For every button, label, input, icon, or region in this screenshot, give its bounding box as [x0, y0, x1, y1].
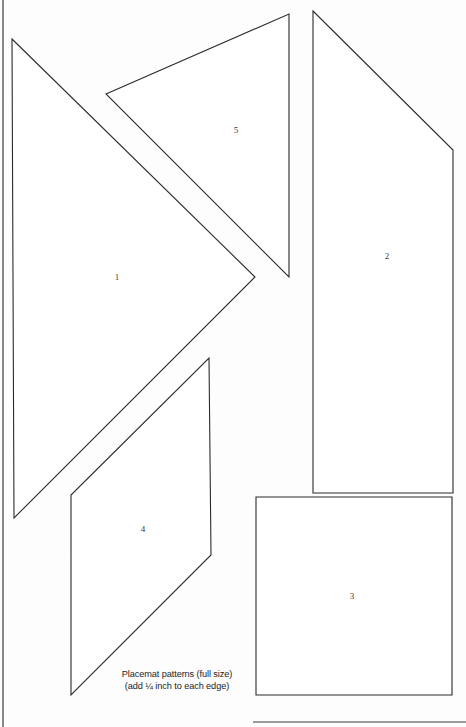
pattern-piece-2-label: 2 [385, 251, 390, 261]
pattern-piece-5-label: 5 [234, 125, 239, 135]
pattern-piece-2[interactable] [313, 11, 453, 493]
pattern-piece-3-label: 3 [350, 591, 355, 601]
placemat-pattern-page: 1 5 2 4 3 Placemat patterns (full size) … [0, 0, 466, 727]
pattern-piece-1-label: 1 [115, 272, 120, 282]
pattern-diagram: 1 5 2 4 3 Placemat patterns (full size) … [0, 0, 466, 727]
pattern-piece-4-label: 4 [141, 524, 146, 534]
caption-line-1: Placemat patterns (full size) [122, 669, 232, 679]
caption-line-2: (add ¼ inch to each edge) [125, 681, 229, 691]
